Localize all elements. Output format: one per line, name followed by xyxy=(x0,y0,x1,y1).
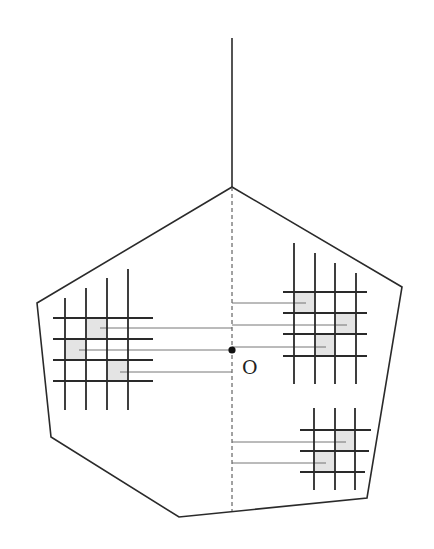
right-bottom-grid-shaded-cell xyxy=(314,451,335,472)
left-grid-shaded-cell xyxy=(107,360,128,381)
origin-label: O xyxy=(242,356,258,378)
diagram-canvas: O xyxy=(0,0,434,549)
right-top-grid-shaded-cell xyxy=(315,334,335,356)
left-grid-shaded-cell xyxy=(65,339,86,360)
pentagon-outline xyxy=(37,187,402,517)
shaded-cells xyxy=(65,292,356,472)
diagram-svg: O xyxy=(0,0,434,549)
left-grid-shaded-cell xyxy=(86,318,107,339)
right-bottom-grid-shaded-cell xyxy=(335,430,355,451)
right-top-grid-shaded-cell xyxy=(335,313,356,334)
right-top-grid-shaded-cell xyxy=(294,292,315,313)
origin-point xyxy=(228,346,235,353)
connector-lines xyxy=(79,303,347,463)
